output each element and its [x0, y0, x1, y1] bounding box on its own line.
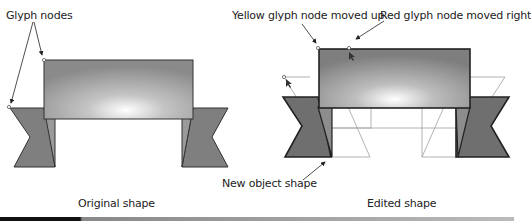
banner-body: [44, 60, 193, 119]
red-glyph-node: [347, 46, 350, 49]
cursor-icon: [286, 79, 292, 88]
arrow-to-left-node: [11, 22, 33, 103]
bottom-rule: [0, 217, 514, 221]
label-red-node: Red glyph node moved right: [380, 9, 531, 22]
caption-edited-shape: Edited shape: [367, 197, 436, 210]
edited-shape: [282, 21, 509, 180]
arrow-yellow-node: [302, 24, 316, 43]
glyph-node-top: [42, 58, 45, 61]
left-ghost-node: [282, 75, 285, 78]
original-shape: [7, 22, 228, 167]
caption-original-shape: Original shape: [78, 197, 155, 210]
label-new-object-shape: New object shape: [222, 177, 317, 190]
arrow-to-top-node: [34, 22, 42, 55]
label-glyph-nodes: Glyph nodes: [6, 9, 73, 22]
edited-banner-body: [319, 49, 470, 108]
label-yellow-node: Yellow glyph node moved up: [232, 9, 384, 22]
glyph-node-left: [7, 105, 10, 108]
arrow-red-node: [356, 21, 384, 39]
yellow-glyph-node: [316, 46, 319, 49]
